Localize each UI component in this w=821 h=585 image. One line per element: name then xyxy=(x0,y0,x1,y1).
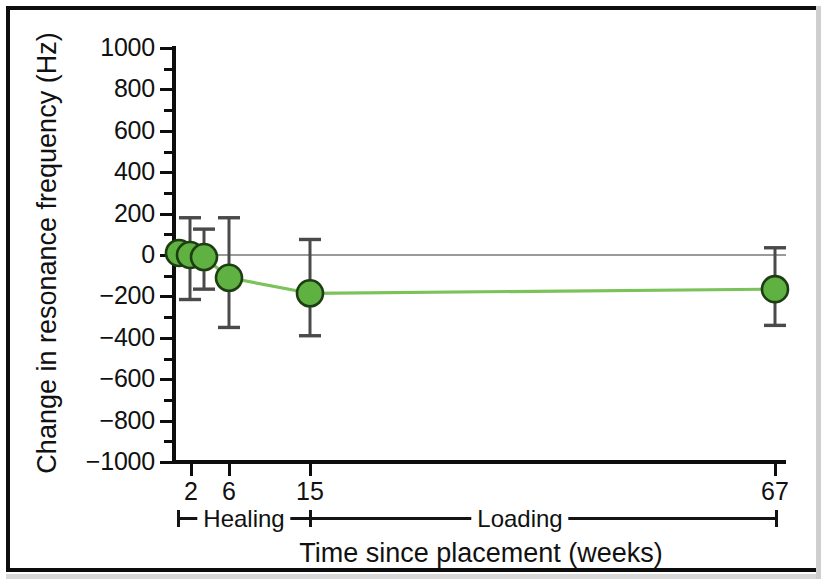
x-axis-tick xyxy=(228,464,231,476)
y-axis-tick-label: 0 xyxy=(141,242,155,267)
phase-bracket-start-cap xyxy=(177,510,180,527)
plot-area xyxy=(176,48,786,462)
x-axis-tick xyxy=(774,464,777,476)
x-axis-tick-label: 2 xyxy=(184,478,198,505)
x-axis-tick-label: 67 xyxy=(761,478,789,505)
y-axis-tick-labels: 10008006004002000−200−400−600−800−1000 xyxy=(0,0,155,585)
y-axis-tick-label: 800 xyxy=(114,76,155,101)
phase-bracket-band: HealingLoading xyxy=(0,506,821,532)
series-line xyxy=(179,253,775,293)
phase-label-loading: Loading xyxy=(471,506,568,532)
y-axis-tick-label: −200 xyxy=(99,283,155,308)
figure-panel: Change in resonance frequency (Hz) 10008… xyxy=(0,0,821,585)
data-series-layer xyxy=(176,48,786,462)
x-axis-tick-label: 6 xyxy=(222,478,236,505)
y-axis-tick-label: −400 xyxy=(99,325,155,350)
y-axis-tick-label: −800 xyxy=(99,408,155,433)
y-axis-tick-label: −1000 xyxy=(86,449,155,474)
phase-label-healing: Healing xyxy=(197,506,290,532)
data-point-marker[interactable] xyxy=(216,265,242,291)
phase-bracket-end-cap xyxy=(775,510,778,527)
data-point-marker[interactable] xyxy=(297,280,323,306)
x-axis-tick xyxy=(309,464,312,476)
x-axis-tick-label: 15 xyxy=(296,478,324,505)
phase-bracket-divider-cap xyxy=(309,510,312,527)
x-axis-title: Time since placement (weeks) xyxy=(176,538,786,568)
data-point-marker[interactable] xyxy=(762,276,788,302)
y-axis-tick-label: 400 xyxy=(114,159,155,184)
data-point-marker[interactable] xyxy=(191,244,217,270)
y-axis-tick-label: 200 xyxy=(114,201,155,226)
y-axis-tick-label: 600 xyxy=(114,118,155,143)
x-axis-tick xyxy=(190,464,193,476)
y-axis-tick-label: 1000 xyxy=(100,35,155,60)
figure-frame-right xyxy=(816,6,821,579)
y-axis-tick-label: −600 xyxy=(99,366,155,391)
